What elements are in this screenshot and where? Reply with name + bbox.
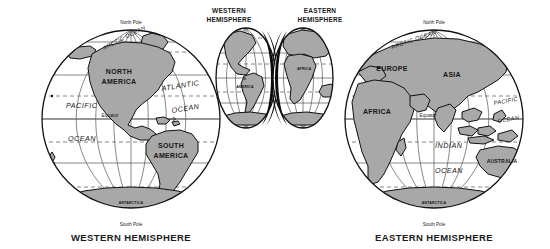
asia-label: ASIA (443, 71, 461, 78)
mini-eastern-title-line1: EASTERN (304, 7, 337, 14)
western-north-pole-label: North Pole (120, 20, 142, 25)
eastern-north-pole-label: North Pole (423, 20, 445, 25)
eastern-antarctica-label: ANTARCTICA (422, 201, 447, 205)
hemispheres-diagram: North Pole South Pole ARCTIC OCEAN NORTH… (0, 0, 550, 249)
mini-western-title-line2: HEMISPHERE (207, 16, 252, 23)
africa-label: AFRICA (363, 108, 391, 115)
south-america-label-line2: AMERICA (154, 152, 189, 159)
mini-western-title-line1: WESTERN (212, 7, 246, 14)
eastern-equator-label: Equator (420, 113, 437, 118)
hawaii-dot (51, 95, 53, 97)
western-equator-label: Equator (102, 113, 119, 118)
mini-western-continent-line2: AMERICA (236, 85, 254, 89)
western-antarctica-label: ANTARCTICA (119, 201, 144, 205)
eastern-hemisphere-caption: EASTERN HEMISPHERE (375, 232, 493, 243)
south-america-label-line1: SOUTH (158, 142, 184, 149)
europe-label: EUROPE (376, 65, 407, 72)
australia-label: AUSTRALIA (487, 158, 518, 164)
western-south-pole-label: South Pole (120, 222, 143, 227)
mini-eastern-title-line2: HEMISPHERE (298, 16, 343, 23)
pacific-ocean-label-line1: PACIFIC (66, 101, 98, 110)
eastern-south-pole-label: South Pole (423, 222, 446, 227)
north-america-label-line2: AMERICA (102, 78, 137, 85)
north-america-label-line1: NORTH (106, 68, 132, 75)
indian-ocean-label-line1: INDIAN (435, 141, 463, 150)
mini-western-continent-line1: S. (243, 77, 247, 81)
western-hemisphere-caption: WESTERN HEMISPHERE (71, 232, 191, 243)
pacific-ocean-label-line2: OCEAN (68, 134, 96, 143)
mini-eastern-continent-line1: AFRICA (297, 67, 311, 71)
indian-ocean-label-line2: OCEAN (435, 166, 463, 175)
